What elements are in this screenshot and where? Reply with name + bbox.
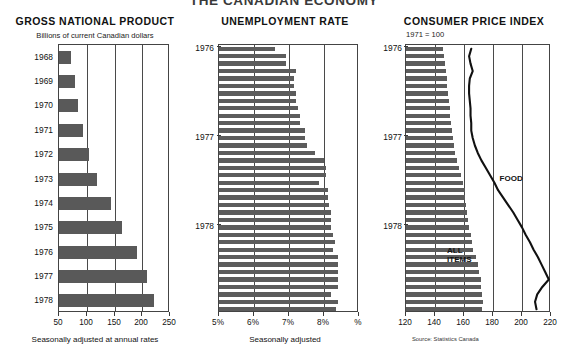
gnp-plot-area (58, 44, 169, 312)
xtick-100 (86, 312, 87, 316)
source-note: Source: Statistics Canada (412, 336, 479, 342)
xtick-label-250: 250 (153, 318, 185, 327)
table-row (59, 294, 154, 307)
table-row (219, 240, 335, 244)
unemployment-year-tick-1978 (217, 224, 221, 225)
table-row (59, 148, 89, 161)
cpi-subtitle: 1971 = 100 (406, 30, 444, 39)
table-row (59, 75, 75, 88)
xtick-label-7: 7% (272, 318, 304, 327)
cpi-year-label-1978: 1978 (378, 221, 402, 231)
cpi-title: CONSUMER PRICE INDEX (380, 15, 568, 27)
xtick-label-220: 220 (534, 318, 566, 327)
xtick-250 (169, 312, 170, 316)
panel-gross-national-product: GROSS NATIONAL PRODUCT Billions of curre… (0, 0, 190, 362)
table-row (219, 47, 275, 51)
table-row (219, 166, 326, 170)
cpi-year-label-1977: 1977 (378, 132, 402, 142)
table-row (59, 270, 147, 283)
xtick-160 (463, 312, 464, 316)
cpi-food-line-svg (406, 45, 551, 313)
cpi-all-items-line1: ALL (447, 246, 471, 255)
table-row (219, 188, 328, 192)
table-row (59, 99, 78, 112)
table-row (219, 203, 329, 207)
gnp-title: GROSS NATIONAL PRODUCT (0, 15, 190, 27)
table-row (59, 124, 83, 137)
poster-canvas: THE CANADIAN ECONOMY GROSS NATIONAL PROD… (0, 0, 568, 362)
table-row (219, 128, 305, 132)
unemployment-year-label-1978: 1978 (188, 221, 214, 231)
cpi-all-items-line2: ITEMS (447, 255, 471, 264)
panel-unemployment-rate: UNEMPLOYMENT RATE Seasonally adjusted 5%… (190, 0, 380, 362)
xtick-5 (218, 312, 219, 316)
table-row (219, 61, 286, 65)
table-row (219, 270, 338, 274)
table-row (219, 233, 333, 237)
xtick-6 (253, 312, 254, 316)
cpi-year-tick-1978 (404, 224, 408, 225)
unemployment-year-tick-1976 (217, 46, 221, 47)
gnp-year-label-1978: 1978 (3, 295, 53, 305)
cpi-plot-area (405, 44, 550, 312)
table-row (219, 218, 331, 222)
table-row (219, 248, 333, 252)
table-row (219, 121, 300, 125)
xtick-label-200: 200 (505, 318, 537, 327)
xtick-150 (114, 312, 115, 316)
table-row (59, 197, 111, 210)
gnp-year-label-1971: 1971 (3, 125, 53, 135)
table-row (219, 151, 315, 155)
table-row (219, 307, 336, 311)
gnp-year-label-1974: 1974 (3, 198, 53, 208)
unemployment-year-label-1977: 1977 (188, 132, 214, 142)
xtick-label-6: 6% (237, 318, 269, 327)
gnp-axis-caption: Seasonally adjusted at annual rates (0, 335, 190, 344)
table-row (219, 173, 326, 177)
xtick-label-8: 8% (307, 318, 339, 327)
table-row (219, 181, 319, 185)
xtick-50 (58, 312, 59, 316)
gnp-year-label-1970: 1970 (3, 100, 53, 110)
table-row (219, 292, 331, 296)
table-row (59, 51, 71, 64)
gnp-year-label-1969: 1969 (3, 76, 53, 86)
cpi-year-label-1976: 1976 (378, 43, 402, 53)
table-row (219, 195, 328, 199)
cpi-food-label: FOOD (500, 174, 523, 183)
xtick-200 (521, 312, 522, 316)
xtick-200 (141, 312, 142, 316)
xtick-120 (405, 312, 406, 316)
table-row (59, 246, 137, 259)
table-row (219, 255, 338, 259)
xtick-9 (358, 312, 359, 316)
table-row (219, 225, 331, 229)
table-row (219, 84, 294, 88)
table-row (219, 106, 298, 110)
table-row (219, 69, 296, 73)
table-row (219, 114, 300, 118)
panel-consumer-price-index: CONSUMER PRICE INDEX 1971 = 100 FOOD ALL… (380, 0, 568, 362)
xtick-220 (550, 312, 551, 316)
xtick-label-9: % (342, 318, 374, 327)
table-row (219, 277, 338, 281)
xtick-label-160: 160 (447, 318, 479, 327)
table-row (219, 158, 324, 162)
gnp-year-label-1972: 1972 (3, 149, 53, 159)
table-row (59, 173, 97, 186)
gnp-year-label-1977: 1977 (3, 271, 53, 281)
xtick-label-5: 5% (202, 318, 234, 327)
xtick-label-140: 140 (418, 318, 450, 327)
gnp-year-label-1976: 1976 (3, 247, 53, 257)
unemployment-year-label-1976: 1976 (188, 43, 214, 53)
xtick-140 (434, 312, 435, 316)
unemployment-plot-area (218, 44, 358, 312)
table-row (219, 285, 338, 289)
table-row (59, 221, 122, 234)
table-row (219, 136, 305, 140)
table-row (219, 143, 307, 147)
gnp-year-label-1968: 1968 (3, 52, 53, 62)
xtick-180 (492, 312, 493, 316)
table-row (219, 54, 286, 58)
xtick-label-180: 180 (476, 318, 508, 327)
